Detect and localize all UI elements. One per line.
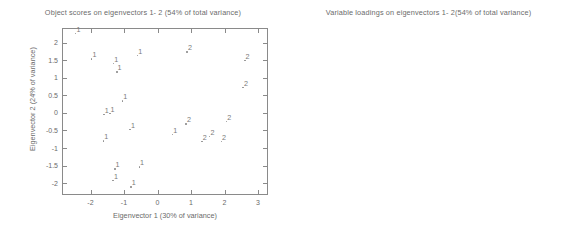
x-tick-mark [124,190,125,194]
x-tick-label: 1 [189,199,193,206]
data-point-label: 1 [92,51,96,59]
data-point-label: 2 [187,116,191,124]
y-tick-mark [263,60,267,61]
data-point-label: 1 [132,179,136,187]
x-tick-mark [225,29,226,33]
data-point-label: 1 [76,26,80,34]
y-tick-mark [63,113,67,114]
data-point-label: 2 [210,129,214,137]
x-tick-mark [258,190,259,194]
data-point-label: 1 [138,48,142,56]
x-tick-mark [158,190,159,194]
x-tick-mark [225,190,226,194]
y-tick-mark [63,60,67,61]
data-point-label: 1 [111,106,115,114]
y-tick-label: 1 [36,74,58,81]
data-point-label: 1 [131,122,135,130]
y-tick-label: 0 [36,109,58,116]
y-tick-label: 1.5 [36,56,58,63]
x-tick-label: 3 [256,199,260,206]
y-tick-label: -2 [36,179,58,186]
data-point-label: 1 [118,64,122,72]
y-tick-mark [63,95,67,96]
chart-panel-variable-loadings: Variable loadings on eigenvectors 1- 2(5… [286,0,571,235]
x-tick-mark [258,29,259,33]
y-tick-mark [63,183,67,184]
y-tick-mark [263,95,267,96]
y-tick-mark [63,43,67,44]
data-point-label: 2 [246,53,250,61]
figure-canvas: Object scores on eigenvectors 1- 2 (54% … [0,0,571,235]
chart-title-object-scores: Object scores on eigenvectors 1- 2 (54% … [0,8,286,17]
x-tick-mark [191,29,192,33]
x-tick-mark [191,190,192,194]
x-tick-mark [91,190,92,194]
y-tick-mark [263,183,267,184]
y-tick-mark [63,148,67,149]
y-axis-label-object-scores: Eigenvector 2 (24% of variance) [28,47,37,151]
data-point-label: 2 [227,114,231,122]
data-point-label: 2 [222,134,226,142]
data-point-label: 1 [116,161,120,169]
y-tick-mark [63,78,67,79]
data-point-label: 1 [140,159,144,167]
data-point-label: 1 [104,133,108,141]
chart-title-variable-loadings: Variable loadings on eigenvectors 1- 2(5… [286,8,571,17]
chart-panel-object-scores: Object scores on eigenvectors 1- 2 (54% … [0,0,286,235]
data-point-label: 2 [188,44,192,52]
x-tick-mark [124,29,125,33]
y-tick-mark [263,130,267,131]
x-tick-mark [91,29,92,33]
x-tick-label: 2 [223,199,227,206]
data-point-label: 1 [173,127,177,135]
data-point-label: 2 [203,134,207,142]
y-tick-label: -0.5 [36,126,58,133]
x-tick-label: -2 [87,199,93,206]
y-tick-label: -1.5 [36,162,58,169]
x-axis-label-object-scores: Eigenvector 1 (30% of variance) [113,211,217,220]
y-tick-mark [63,130,67,131]
x-tick-label: 0 [156,199,160,206]
y-tick-label: 2 [36,39,58,46]
y-tick-mark [63,166,67,167]
y-tick-mark [263,148,267,149]
data-point-label: 1 [114,56,118,64]
data-point-label: 1 [114,173,118,181]
y-tick-label: 0.5 [36,91,58,98]
y-tick-mark [263,166,267,167]
x-tick-mark [158,29,159,33]
y-tick-mark [263,78,267,79]
x-tick-label: -1 [121,199,127,206]
y-tick-label: -1 [36,144,58,151]
data-point-label: 2 [244,80,248,88]
y-tick-mark [263,43,267,44]
y-tick-mark [263,113,267,114]
data-point-label: 1 [123,93,127,101]
